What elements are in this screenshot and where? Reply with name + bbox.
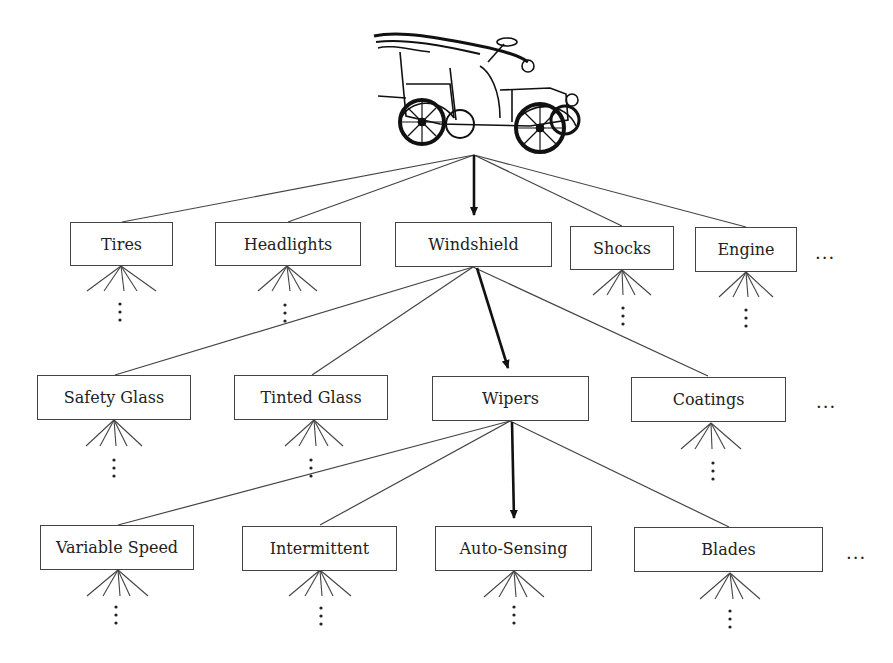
node-label: Engine: [717, 240, 774, 259]
node-shocks: Shocks: [570, 226, 674, 270]
node-windshield: Windshield: [395, 222, 552, 267]
node-label: Tires: [101, 235, 142, 254]
node-coatings: Coatings: [631, 377, 786, 422]
node-intermittent: Intermittent: [242, 526, 397, 571]
node-label: Shocks: [593, 239, 651, 258]
node-tinted-glass: Tinted Glass: [234, 375, 388, 420]
node-label: Windshield: [428, 235, 518, 254]
node-label: Intermittent: [270, 539, 370, 558]
node-label: Safety Glass: [64, 388, 164, 407]
node-headlights: Headlights: [215, 222, 361, 266]
node-label: Blades: [701, 540, 755, 559]
more-ellipsis-level-2: ...: [816, 391, 836, 412]
node-wipers: Wipers: [432, 376, 589, 421]
node-tires: Tires: [70, 222, 173, 266]
antique-car-icon: [370, 28, 582, 158]
node-safety-glass: Safety Glass: [37, 375, 191, 420]
node-variable-speed: Variable Speed: [40, 525, 194, 570]
node-label: Headlights: [244, 235, 333, 254]
node-label: Variable Speed: [56, 538, 178, 557]
node-label: Tinted Glass: [260, 388, 361, 407]
node-label: Auto-Sensing: [460, 539, 568, 558]
more-ellipsis-level-3: ...: [846, 542, 866, 563]
node-blades: Blades: [634, 527, 823, 572]
node-engine: Engine: [695, 227, 797, 272]
hierarchy-diagram: Tires Headlights Windshield Shocks Engin…: [0, 0, 893, 663]
more-ellipsis-level-1: ...: [815, 242, 835, 263]
node-label: Coatings: [673, 390, 745, 409]
node-auto-sensing: Auto-Sensing: [435, 526, 592, 571]
node-label: Wipers: [482, 389, 539, 408]
